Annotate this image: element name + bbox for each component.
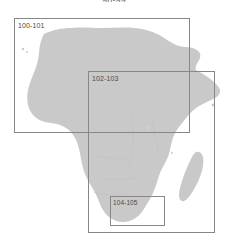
index-box-label-102-103: 102-103 xyxy=(92,74,118,83)
index-box-104-105[interactable]: 104-105 xyxy=(110,196,165,226)
index-box-label-100-101: 100-101 xyxy=(18,21,44,30)
index-box-label-104-105: 104-105 xyxy=(113,198,138,207)
page-caption: 98-99 xyxy=(0,0,228,2)
map-index-page: 98-99 xyxy=(0,0,228,245)
